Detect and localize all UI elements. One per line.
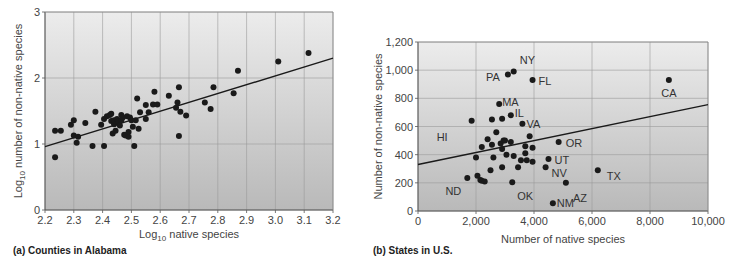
- y-tick-label: 1,000: [385, 64, 413, 76]
- data-point: [527, 133, 533, 139]
- state-point-pa: [505, 71, 511, 77]
- data-point: [485, 136, 491, 142]
- data-point: [473, 154, 479, 160]
- x-tick-label: 3.2: [325, 214, 340, 226]
- x-tick-label: 2.8: [210, 214, 225, 226]
- data-point: [482, 178, 488, 184]
- state-label-va: VA: [526, 118, 541, 130]
- x-axis-label: Number of native species: [501, 233, 626, 245]
- data-point: [176, 133, 182, 139]
- state-label-nv: NV: [552, 167, 568, 179]
- data-point: [275, 59, 281, 65]
- chart-a-caption: (a) Counties in Alabama: [13, 245, 127, 256]
- data-point: [82, 120, 88, 126]
- x-tick-label: 3.1: [297, 214, 312, 226]
- data-point: [522, 150, 528, 156]
- state-label-nd: ND: [445, 185, 461, 197]
- data-point: [52, 128, 58, 134]
- data-point: [530, 145, 536, 151]
- data-point: [493, 129, 499, 135]
- state-label-ok: OK: [517, 190, 534, 202]
- chart-b-caption: (b) States in U.S.: [373, 245, 452, 256]
- data-point: [136, 126, 142, 132]
- data-point: [92, 109, 98, 115]
- data-point: [488, 167, 494, 173]
- state-point-il: [508, 112, 514, 118]
- chart-b-plot: 02,0004,0006,0008,00010,0000200400600800…: [360, 0, 735, 274]
- y-axis-label: Number of non-native species: [372, 53, 384, 200]
- data-point: [101, 143, 107, 149]
- x-tick-label: 2.3: [66, 214, 81, 226]
- y-tick-label: 1: [34, 138, 40, 150]
- data-point: [58, 128, 64, 134]
- state-label-fl: FL: [539, 75, 552, 87]
- state-point-nd: [464, 175, 470, 181]
- x-tick-label: 2.7: [181, 214, 196, 226]
- state-label-pa: PA: [486, 71, 501, 83]
- data-point: [499, 116, 505, 122]
- data-point: [143, 102, 149, 108]
- data-point: [134, 95, 140, 101]
- data-point: [306, 50, 312, 56]
- data-point: [515, 164, 521, 170]
- data-point: [52, 154, 58, 160]
- y-tick-label: 2: [34, 72, 40, 84]
- data-point: [151, 89, 157, 95]
- y-tick-label: 1,200: [385, 36, 413, 48]
- data-point: [479, 144, 485, 150]
- state-label-ny: NY: [520, 54, 536, 66]
- x-tick-label: 8,000: [636, 215, 664, 227]
- data-point: [166, 93, 172, 99]
- data-point: [499, 164, 505, 170]
- data-point: [503, 152, 509, 158]
- y-tick-label: 800: [395, 92, 413, 104]
- data-point: [508, 139, 514, 145]
- data-point: [490, 154, 496, 160]
- data-point: [183, 113, 189, 119]
- chart-a-panel: 2.22.32.42.52.62.72.82.93.03.13.20123Log…: [0, 0, 360, 274]
- x-tick-label: 2.9: [239, 214, 254, 226]
- y-tick-label: 200: [395, 177, 413, 189]
- state-label-az: AZ: [573, 192, 587, 204]
- data-point: [489, 142, 495, 148]
- state-label-or: OR: [566, 137, 583, 149]
- data-point: [231, 90, 237, 96]
- state-label-ma: MA: [502, 96, 519, 108]
- data-point: [524, 157, 530, 163]
- data-point: [530, 159, 536, 165]
- data-point: [126, 129, 132, 135]
- data-point: [146, 109, 152, 115]
- data-point: [98, 122, 104, 128]
- state-point-ok: [509, 179, 515, 185]
- state-label-il: IL: [515, 107, 524, 119]
- data-point: [143, 116, 149, 122]
- data-point: [108, 111, 114, 117]
- data-point: [202, 99, 208, 105]
- y-tick-label: 0: [34, 204, 40, 216]
- x-tick-label: 4,000: [520, 215, 548, 227]
- x-tick-label: 2.4: [95, 214, 110, 226]
- state-label-ca: CA: [661, 87, 677, 99]
- data-point: [137, 109, 143, 115]
- state-label-ut: UT: [555, 154, 570, 166]
- state-point-nm: [550, 200, 556, 206]
- data-point: [522, 143, 528, 149]
- x-tick-label: 6,000: [578, 215, 606, 227]
- data-point: [210, 84, 216, 90]
- x-tick-label: 2.5: [124, 214, 139, 226]
- y-axis-label: Log10 number of non-native species: [12, 23, 27, 198]
- state-point-ca: [666, 77, 672, 83]
- data-point: [518, 157, 524, 163]
- data-point: [177, 109, 183, 115]
- state-label-hi: HI: [437, 131, 448, 143]
- x-tick-label: 10,000: [691, 215, 725, 227]
- state-point-or: [556, 139, 562, 145]
- data-point: [130, 124, 136, 130]
- data-point: [131, 143, 137, 149]
- state-point-va: [519, 121, 525, 127]
- state-point-ny: [511, 69, 517, 75]
- state-point-nv: [543, 164, 549, 170]
- y-tick-label: 400: [395, 149, 413, 161]
- x-tick-label: 3.0: [268, 214, 283, 226]
- data-point: [113, 128, 119, 134]
